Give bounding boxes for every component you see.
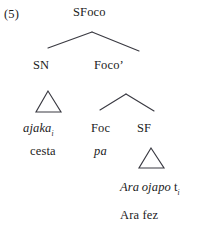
sf-triangle: [139, 148, 164, 168]
terminal-ojapo: ojapo: [142, 180, 171, 194]
node-sf: SF: [137, 122, 151, 135]
figure-canvas: (5) SFoco SN Foco’ ajakai Foc SF cesta p…: [0, 0, 202, 232]
terminal-ajaka: ajakai: [23, 122, 54, 137]
terminal-trace-subscript: i: [178, 188, 180, 197]
root-branch: [48, 32, 139, 51]
terminal-ajaka-text: ajaka: [23, 121, 52, 135]
foco-bar-branch: [100, 94, 154, 111]
terminal-ajaka-subscript: i: [52, 129, 54, 138]
node-sn: SN: [33, 59, 49, 72]
gloss-ara-fez: Ara fez: [120, 209, 158, 222]
terminal-ara: Ara: [120, 180, 139, 194]
node-sfoco: SFoco: [73, 6, 106, 19]
tree-lines: [0, 0, 202, 232]
gloss-cesta: cesta: [30, 145, 56, 158]
example-number: (5): [4, 8, 19, 21]
sn-triangle: [36, 91, 61, 112]
terminal-sf-phrase: Araojapoti: [120, 181, 180, 196]
node-foc: Foc: [91, 122, 110, 135]
node-foco-bar: Foco’: [94, 59, 124, 72]
terminal-pa: pa: [94, 145, 107, 158]
